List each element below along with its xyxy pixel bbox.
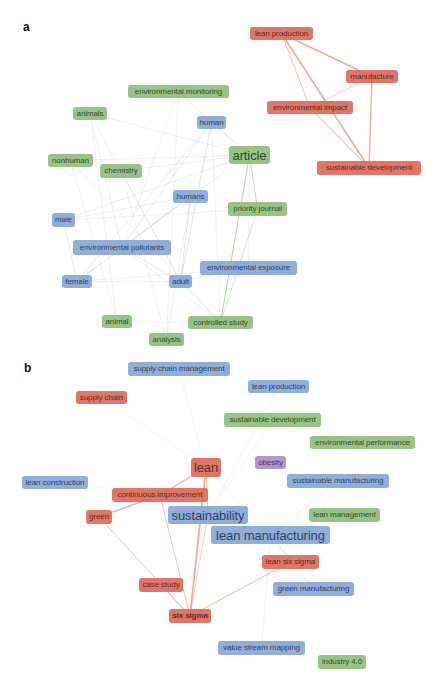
- node-lean[interactable]: lean: [191, 458, 221, 477]
- node-article[interactable]: article: [229, 146, 270, 164]
- edge-animals-animal: [90, 114, 117, 322]
- node-sustainable-development-b[interactable]: sustainable development: [224, 413, 321, 427]
- node-supply-chain-management[interactable]: supply chain management: [128, 362, 230, 376]
- edge-environmental-impact-sustainable-development: [310, 108, 369, 169]
- node-chemistry[interactable]: chemistry: [100, 164, 142, 178]
- node-lean-management[interactable]: lean management: [309, 508, 380, 522]
- node-manufacture[interactable]: manufacture: [346, 70, 398, 83]
- node-female[interactable]: female: [62, 275, 92, 288]
- node-supply-chain[interactable]: supply chain: [76, 391, 127, 404]
- node-industry-4-0[interactable]: industry 4.0: [318, 655, 366, 669]
- node-obesity[interactable]: obesity: [255, 456, 286, 469]
- edge-environmental-pollutants-animals: [90, 114, 122, 248]
- edge-article-nonhuman: [71, 155, 250, 161]
- node-priority-journal[interactable]: priority journal: [228, 202, 287, 216]
- node-case-study[interactable]: case study: [139, 578, 183, 592]
- node-lean-production[interactable]: lean production: [250, 27, 313, 40]
- node-lean-six-sigma[interactable]: lean six sigma: [262, 555, 319, 569]
- edge-human-environmental-pollutants: [122, 123, 212, 248]
- node-lean-manufacturing[interactable]: lean manufacturing: [211, 526, 330, 544]
- node-environmental-performance[interactable]: environmental performance: [310, 436, 415, 449]
- node-environmental-impact[interactable]: environmental impact: [267, 101, 353, 114]
- node-lean-production-b[interactable]: lean production: [248, 380, 309, 393]
- node-green-manufacturing[interactable]: green manufacturing: [273, 582, 354, 596]
- node-animal[interactable]: animal: [102, 315, 132, 328]
- edge-article-controlled-study: [221, 155, 250, 323]
- panel-label-b: b: [24, 361, 31, 375]
- node-green[interactable]: green: [86, 510, 112, 524]
- node-animals[interactable]: animals: [73, 107, 107, 120]
- panel-label-a: a: [23, 20, 30, 34]
- node-sustainable-development[interactable]: sustainable development: [317, 161, 421, 175]
- node-nonhuman[interactable]: nonhuman: [48, 154, 93, 167]
- node-sustainability[interactable]: sustainability: [168, 506, 248, 524]
- node-adult[interactable]: adult: [169, 275, 192, 288]
- edge-supply-chain-lean: [102, 398, 207, 468]
- node-environmental-monitoring[interactable]: environmental monitoring: [128, 85, 229, 98]
- node-environmental-exposure[interactable]: environmental exposure: [200, 261, 297, 275]
- node-human[interactable]: human: [197, 116, 226, 129]
- edge-chemistry-adult: [121, 171, 181, 282]
- node-humans[interactable]: humans: [173, 190, 208, 203]
- edge-human-controlled-study: [212, 123, 221, 323]
- node-sustainable-manufacturing[interactable]: sustainable manufacturing: [287, 474, 389, 488]
- node-value-stream-mapping[interactable]: value stream mapping: [218, 641, 305, 655]
- node-environmental-pollutants[interactable]: environmental pollutants: [73, 240, 171, 255]
- node-six-sigma[interactable]: six sigma: [169, 609, 211, 623]
- node-continuous-improvement[interactable]: continuous improvement: [112, 488, 208, 502]
- node-male[interactable]: male: [52, 213, 75, 227]
- edge-manufacture-sustainable-development: [369, 77, 372, 169]
- node-lean-construction[interactable]: lean construction: [22, 476, 88, 489]
- node-controlled-study[interactable]: controlled study: [188, 316, 253, 329]
- edge-supply-chain-management-lean: [179, 369, 206, 468]
- node-analysis[interactable]: analysis: [149, 333, 184, 346]
- network-edges: [0, 0, 441, 693]
- edge-lean-manufacturing-value-stream-mapping: [262, 535, 271, 648]
- edge-sustainability-lean-production-b: [208, 387, 279, 516]
